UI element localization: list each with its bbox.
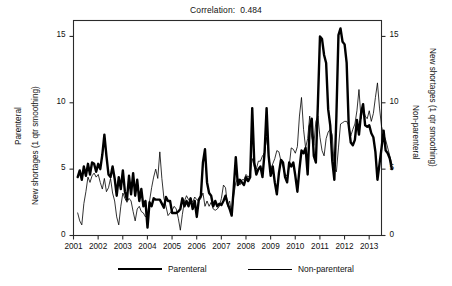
legend-label-non-parenteral: Non-parenteral	[298, 264, 354, 274]
right-axis-outer-title: New shortages (1 qtr smoothing)	[428, 48, 437, 167]
left-tick-label-15: 15	[40, 30, 66, 39]
chart-legend: Parenteral Non-parenteral	[0, 258, 452, 282]
x-axis-ticks	[74, 236, 370, 240]
data-series-group	[78, 28, 392, 230]
left-tick-label-10: 10	[40, 97, 66, 106]
chart-figure: Correlation: 0.484 Parenteral New shorta…	[0, 0, 452, 286]
left-axis-outer-title: Parenteral	[14, 107, 23, 145]
right-tick-label-5: 5	[390, 163, 406, 172]
left-tick-label-0: 0	[40, 230, 66, 239]
right-tick-label-0: 0	[390, 230, 406, 239]
right-tick-label-15: 15	[390, 30, 406, 39]
right-axis-inner-title: Non-parenteral	[411, 105, 420, 160]
legend-item-parenteral[interactable]: Parenteral	[118, 258, 207, 280]
series-line-non-parenteral	[78, 83, 392, 230]
left-tick-label-5: 5	[40, 163, 66, 172]
legend-line-thick-icon	[118, 268, 162, 271]
x-tick-label-2013: 2013	[355, 242, 383, 251]
legend-label-parenteral: Parenteral	[168, 264, 207, 274]
left-axis-ticks	[70, 36, 74, 235]
legend-line-thin-icon	[248, 269, 292, 270]
legend-item-non-parenteral[interactable]: Non-parenteral	[248, 258, 354, 280]
right-tick-label-10: 10	[390, 97, 406, 106]
